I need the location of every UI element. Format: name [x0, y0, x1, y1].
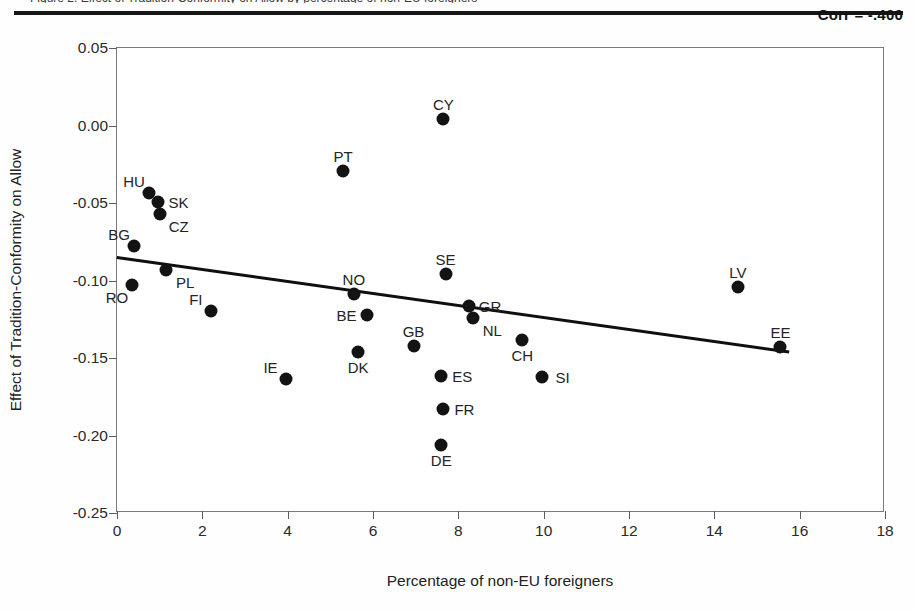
x-axis-tick-label: 10 [535, 522, 552, 540]
data-point-label: SK [169, 194, 189, 211]
x-axis-tick-label: 18 [876, 522, 893, 540]
x-axis-tick [800, 511, 801, 519]
y-axis-tick-label: -0.15 [73, 349, 108, 367]
data-point [360, 309, 373, 322]
data-point [347, 288, 360, 301]
y-axis-tick [109, 126, 117, 127]
data-point-label: DE [431, 451, 452, 468]
y-axis-tick [109, 436, 117, 437]
y-axis-tick [109, 513, 117, 514]
data-point [160, 264, 173, 277]
data-point-label: CH [511, 347, 533, 364]
data-point [463, 300, 476, 313]
trend-line [117, 256, 789, 354]
data-point-label: IE [263, 358, 277, 375]
correlation-annotation: Corr = -.400 [818, 6, 903, 23]
x-axis-tick [288, 511, 289, 519]
x-axis-tick-label: 2 [198, 522, 207, 540]
y-axis-tick-label: -0.05 [73, 194, 108, 212]
data-point [467, 312, 480, 325]
x-axis-tick [202, 511, 203, 519]
data-point [352, 345, 365, 358]
top-horizontal-rule [14, 11, 903, 15]
x-axis-tick-label: 12 [620, 522, 637, 540]
data-point [435, 369, 448, 382]
y-axis-tick-label: -0.25 [73, 504, 108, 522]
data-point-label: PL [176, 274, 194, 291]
data-point [731, 281, 744, 294]
y-axis-tick-label: -0.10 [73, 272, 108, 290]
y-axis-tick [109, 358, 117, 359]
y-axis-tick-label: 0.00 [78, 117, 108, 135]
y-axis-tick-label: 0.05 [78, 39, 108, 57]
data-point-label: CZ [169, 217, 189, 234]
y-axis-tick [109, 281, 117, 282]
x-axis-tick-label: 14 [706, 522, 723, 540]
data-point-label: NO [343, 271, 366, 288]
data-point-label: EE [770, 324, 790, 341]
x-axis-tick [714, 511, 715, 519]
data-point [279, 372, 292, 385]
plot-area: 0.050.00-0.05-0.10-0.15-0.20-0.250246810… [116, 47, 884, 512]
y-axis-tick-label: -0.20 [73, 427, 108, 445]
data-point [204, 304, 217, 317]
data-point-label: CY [433, 96, 454, 113]
x-axis-label: Percentage of non-EU foreigners [387, 572, 614, 590]
data-point-label: ES [452, 367, 472, 384]
clipped-caption: Figure 2. Effect of Tradition-Conformity… [30, 0, 890, 3]
x-axis-tick [373, 511, 374, 519]
x-axis-tick [629, 511, 630, 519]
data-point-label: FR [454, 401, 474, 418]
y-axis-label: Effect of Tradition-Conformity on Allow [7, 149, 25, 411]
data-point [437, 403, 450, 416]
data-point [435, 438, 448, 451]
x-axis-tick-label: 0 [113, 522, 122, 540]
data-point-label: RO [106, 289, 129, 306]
data-point-label: NL [483, 322, 502, 339]
data-point-label: SI [555, 369, 569, 386]
data-point-label: FI [189, 290, 202, 307]
data-point [535, 371, 548, 384]
data-point [774, 341, 787, 354]
x-axis-tick [885, 511, 886, 519]
y-axis-tick [109, 48, 117, 49]
data-point-label: HU [123, 172, 145, 189]
data-point-label: GB [403, 323, 425, 340]
data-point-label: BG [108, 225, 130, 242]
data-point [153, 207, 166, 220]
x-axis-tick-label: 6 [369, 522, 378, 540]
data-point-label: SE [436, 250, 456, 267]
data-point [337, 165, 350, 178]
data-point-label: LV [729, 264, 746, 281]
data-point [516, 334, 529, 347]
data-point-label: GR [479, 298, 502, 315]
x-axis-tick [117, 511, 118, 519]
data-point [439, 267, 452, 280]
data-point-label: DK [348, 358, 369, 375]
x-axis-tick-label: 16 [791, 522, 808, 540]
x-axis-tick [544, 511, 545, 519]
y-axis-tick [109, 203, 117, 204]
figure-container: Figure 2. Effect of Tradition-Conformity… [0, 0, 917, 612]
data-point [437, 113, 450, 126]
data-point-label: BE [337, 307, 357, 324]
x-axis-tick [458, 511, 459, 519]
x-axis-tick-label: 8 [454, 522, 463, 540]
data-point [407, 340, 420, 353]
x-axis-tick-label: 4 [283, 522, 292, 540]
data-point-label: PT [334, 148, 353, 165]
